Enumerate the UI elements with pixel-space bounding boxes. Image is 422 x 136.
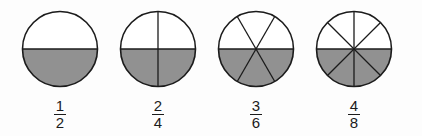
fraction-four-eighths: 48: [348, 98, 360, 131]
fraction-circle-three-sixths: [216, 9, 296, 89]
circle-shaded-region: [219, 49, 294, 86]
fraction-denominator: 2: [54, 115, 66, 130]
circle-container-four-eighths: [314, 9, 394, 89]
fraction-numerator: 1: [54, 98, 66, 113]
fraction-numerator: 4: [348, 98, 360, 113]
fraction-model-two-fourths: 24: [108, 0, 208, 136]
fraction-model-three-sixths: 36: [206, 0, 306, 136]
fraction-two-fourths: 24: [152, 98, 164, 131]
fraction-numerator: 3: [250, 98, 262, 113]
fraction-circle-two-fourths: [118, 9, 198, 89]
fraction-label-three-sixths: 36: [206, 98, 306, 132]
fraction-label-one-half: 12: [10, 98, 110, 132]
fraction-model-one-half: 12: [10, 0, 110, 136]
circle-container-three-sixths: [216, 9, 296, 89]
circle-container-two-fourths: [118, 9, 198, 89]
fraction-denominator: 6: [250, 115, 262, 130]
fraction-label-two-fourths: 24: [108, 98, 208, 132]
circle-shaded-region: [23, 49, 98, 86]
fraction-circle-one-half: [20, 9, 100, 89]
equivalent-fractions-figure: 12243648: [0, 0, 422, 136]
fraction-numerator: 2: [152, 98, 164, 113]
fraction-denominator: 4: [152, 115, 164, 130]
fraction-circle-four-eighths: [314, 9, 394, 89]
fraction-label-four-eighths: 48: [304, 98, 404, 132]
fraction-three-sixths: 36: [250, 98, 262, 131]
fraction-model-four-eighths: 48: [304, 0, 404, 136]
fraction-one-half: 12: [54, 98, 66, 131]
circle-container-one-half: [20, 9, 100, 89]
fraction-denominator: 8: [348, 115, 360, 130]
